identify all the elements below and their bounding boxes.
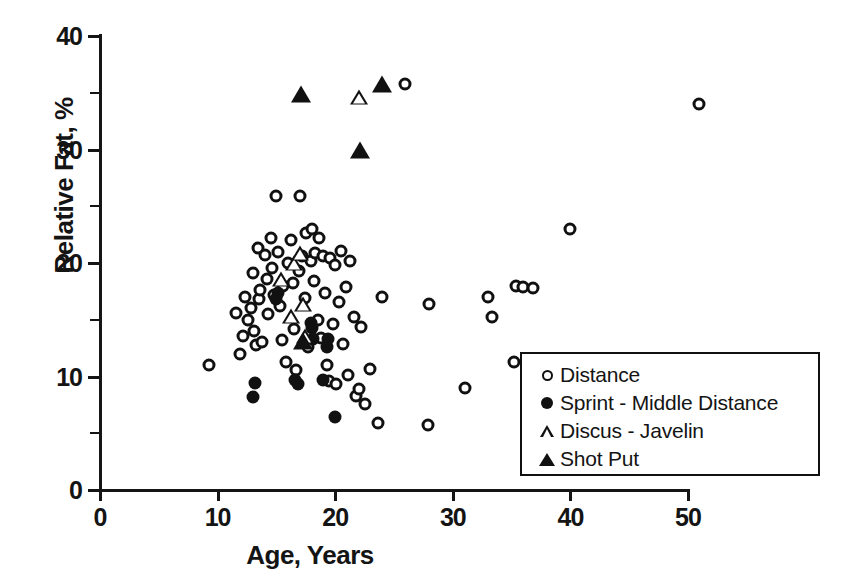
circle-open-icon bbox=[253, 284, 266, 297]
triangle-filled-icon bbox=[534, 453, 560, 466]
x-tick bbox=[217, 489, 220, 501]
data-point-discus-javelin bbox=[291, 245, 309, 260]
circle-open-icon bbox=[270, 190, 283, 203]
data-point-distance bbox=[422, 419, 435, 432]
x-tick bbox=[569, 489, 572, 501]
y-minor-tick bbox=[90, 205, 100, 207]
legend-entry-discus-javelin[interactable]: Discus - Javelin bbox=[534, 418, 704, 444]
circle-open-icon bbox=[332, 295, 345, 308]
triangle-open-icon bbox=[272, 271, 290, 286]
x-tick-label: 30 bbox=[440, 503, 466, 532]
circle-open-icon bbox=[326, 318, 339, 331]
circle-open-icon bbox=[342, 369, 355, 382]
data-point-distance bbox=[398, 77, 411, 90]
circle-open-icon bbox=[312, 232, 325, 245]
data-point-distance bbox=[253, 284, 266, 297]
x-axis-title: Age, Years bbox=[0, 540, 620, 571]
circle-open-icon bbox=[692, 98, 705, 111]
x-tick-label: 10 bbox=[205, 503, 231, 532]
data-point-distance bbox=[364, 362, 377, 375]
triangle-open-icon bbox=[350, 90, 368, 105]
legend-box: Distance Sprint - Middle Distance Discus… bbox=[520, 352, 820, 476]
circle-open-icon bbox=[320, 359, 333, 372]
x-tick bbox=[452, 489, 455, 501]
data-point-distance bbox=[293, 190, 306, 203]
circle-open-icon bbox=[358, 397, 371, 410]
data-point-discus-javelin bbox=[350, 90, 368, 105]
circle-open-icon bbox=[276, 334, 289, 347]
triangle-filled-icon bbox=[293, 333, 313, 350]
circle-open-icon bbox=[526, 281, 539, 294]
triangle-open-icon bbox=[294, 296, 312, 311]
data-point-distance bbox=[376, 291, 389, 304]
circle-open-icon bbox=[564, 222, 577, 235]
scatter-plot-figure: 40302010001020304050 Relative Fat, % Age… bbox=[0, 0, 850, 586]
data-point-distance bbox=[256, 336, 269, 349]
triangle-filled-icon bbox=[372, 75, 392, 92]
y-tick bbox=[88, 35, 100, 38]
circle-open-icon bbox=[329, 259, 342, 272]
circle-open-icon bbox=[256, 336, 269, 349]
circle-open-icon bbox=[485, 311, 498, 324]
data-point-distance bbox=[526, 281, 539, 294]
data-point-sprint-middle-distance bbox=[271, 286, 284, 299]
circle-filled-icon bbox=[249, 377, 262, 390]
circle-open-icon bbox=[371, 417, 384, 430]
data-point-sprint-middle-distance bbox=[322, 333, 335, 346]
circle-open-icon bbox=[355, 320, 368, 333]
circle-filled-icon bbox=[271, 286, 284, 299]
data-point-distance bbox=[329, 259, 342, 272]
triangle-open-icon bbox=[534, 425, 560, 437]
circle-open-icon bbox=[293, 190, 306, 203]
triangle-filled-icon bbox=[350, 141, 370, 158]
y-tick bbox=[88, 376, 100, 379]
y-minor-tick bbox=[90, 319, 100, 321]
circle-open-icon bbox=[203, 359, 216, 372]
circle-filled-icon bbox=[322, 333, 335, 346]
legend-entry-distance[interactable]: Distance bbox=[534, 362, 640, 388]
circle-open-icon bbox=[376, 291, 389, 304]
legend-entry-shot-put[interactable]: Shot Put bbox=[534, 446, 639, 472]
data-point-distance bbox=[344, 254, 357, 267]
legend-label: Shot Put bbox=[560, 447, 639, 471]
data-point-distance bbox=[342, 369, 355, 382]
circle-filled-icon bbox=[534, 397, 560, 409]
data-point-distance bbox=[355, 320, 368, 333]
data-point-distance bbox=[318, 286, 331, 299]
circle-filled-icon bbox=[246, 390, 259, 403]
data-point-sprint-middle-distance bbox=[246, 390, 259, 403]
data-point-shot-put bbox=[293, 333, 313, 350]
x-tick-label: 20 bbox=[322, 503, 348, 532]
circle-open-icon bbox=[423, 297, 436, 310]
x-tick bbox=[334, 489, 337, 501]
data-point-distance bbox=[320, 359, 333, 372]
data-point-discus-javelin bbox=[272, 271, 290, 286]
circle-open-icon bbox=[258, 249, 271, 262]
x-tick bbox=[99, 489, 102, 501]
data-point-distance bbox=[270, 190, 283, 203]
data-point-distance bbox=[485, 311, 498, 324]
y-minor-tick bbox=[90, 92, 100, 94]
data-point-shot-put bbox=[372, 75, 392, 92]
circle-open-icon bbox=[344, 254, 357, 267]
circle-open-icon bbox=[337, 337, 350, 350]
circle-open-icon bbox=[246, 267, 259, 280]
data-point-sprint-middle-distance bbox=[329, 411, 342, 424]
data-point-distance bbox=[358, 397, 371, 410]
circle-open-icon bbox=[352, 382, 365, 395]
legend-label: Discus - Javelin bbox=[560, 419, 704, 443]
data-point-distance bbox=[482, 291, 495, 304]
x-tick-label: 40 bbox=[557, 503, 583, 532]
data-point-distance bbox=[337, 337, 350, 350]
data-point-distance bbox=[312, 232, 325, 245]
data-point-sprint-middle-distance bbox=[317, 373, 330, 386]
data-point-distance bbox=[458, 381, 471, 394]
legend-entry-sprint-middle-distance[interactable]: Sprint - Middle Distance bbox=[534, 390, 778, 416]
data-point-sprint-middle-distance bbox=[291, 378, 304, 391]
data-point-distance bbox=[371, 417, 384, 430]
data-point-distance bbox=[339, 280, 352, 293]
y-minor-tick bbox=[90, 432, 100, 434]
data-point-distance bbox=[564, 222, 577, 235]
circle-open-icon bbox=[318, 286, 331, 299]
circle-filled-icon bbox=[329, 411, 342, 424]
